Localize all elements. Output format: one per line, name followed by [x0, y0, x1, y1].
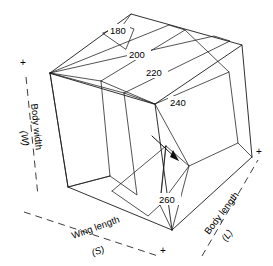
contour-220-sheet-link [124, 93, 155, 104]
contour-label-200: 200 [129, 49, 145, 60]
axis-body-length-symbol: (L) [219, 227, 235, 243]
optimum-arrow-head [170, 150, 179, 161]
axis-wing-length-label: Wing length [70, 213, 121, 240]
contour-label-220: 220 [146, 67, 162, 78]
axis-body-width-plus: + [20, 57, 26, 68]
axis-wing-length-plus: + [160, 245, 166, 256]
contour-label-180: 180 [110, 25, 126, 36]
contour-label-240: 240 [170, 97, 186, 108]
axis-body-length-plus: + [256, 146, 262, 157]
contour-label-group: 180 200 220 240 260 [108, 24, 192, 205]
axis-body-width-symbol: (W) [19, 130, 32, 146]
axis-body-length: Body length (L) + [202, 146, 262, 256]
contour-220-top-trace [50, 36, 230, 93]
cube-edge-right [242, 45, 252, 157]
axis-body-width: + Body width (W) [19, 57, 45, 196]
contour-200-sheet [50, 73, 110, 187]
contour-240-right-link [238, 143, 252, 157]
contour-label-260: 260 [159, 194, 175, 205]
contour-fan-left-b [50, 73, 124, 93]
axis-wing-length-symbol: (S) [90, 243, 106, 258]
contour-220-sheet [110, 93, 137, 195]
contour-cube-svg: 180 200 220 240 260 + Body width (W) Win… [0, 0, 273, 266]
contour-260-skirt [112, 146, 166, 216]
contour-bottom-left-link [68, 176, 110, 187]
contour-cube-figure: 180 200 220 240 260 + Body width (W) Win… [0, 0, 273, 266]
contour-260-skirt-top [112, 146, 166, 191]
axis-body-length-label: Body length [202, 190, 241, 237]
cube-outline [50, 14, 252, 230]
